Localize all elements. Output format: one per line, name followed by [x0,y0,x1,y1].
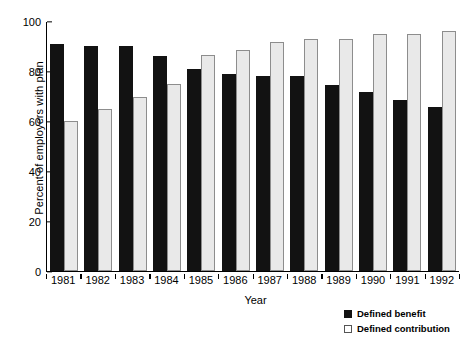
x-axis-label: Year [45,294,466,306]
bar-group [425,22,459,271]
bar-defined-contribution-1983 [133,97,147,271]
bar-defined-contribution-1988 [304,39,318,272]
y-tick-label: 40 [29,166,47,178]
bar-defined-benefit-1985 [187,69,201,272]
x-tick-mark [321,274,322,279]
bar-defined-benefit-1982 [84,46,98,271]
bar-defined-contribution-1987 [270,42,284,271]
bar-chart: Percent of employers with plan 020406080… [0,0,466,348]
x-tick-mark [287,274,288,279]
bar-defined-contribution-1991 [407,34,421,272]
plot-area: 020406080100 [46,22,459,272]
bar-group [322,22,356,271]
x-tick-mark [46,274,47,279]
y-tick-label: 80 [29,66,47,78]
bar-group [47,22,81,271]
x-tick-mark [356,274,357,279]
x-tick-mark [425,274,426,279]
x-tick-label: 1987 [253,274,287,292]
y-tick-label: 60 [29,116,47,128]
bar-defined-benefit-1981 [50,44,64,272]
bar-defined-contribution-1985 [201,55,215,271]
x-tick-label: 1988 [287,274,321,292]
legend-label: Defined contribution [357,323,450,334]
bar-group [219,22,253,271]
x-tick-label: 1983 [115,274,149,292]
bar-group [287,22,321,271]
x-tick-mark [115,274,116,279]
bar-group [116,22,150,271]
bar-defined-benefit-1986 [222,74,236,272]
x-tick-mark [390,274,391,279]
bar-group [81,22,115,271]
chart-legend: Defined benefitDefined contribution [344,308,450,338]
y-tick-label: 20 [29,216,47,228]
bar-defined-benefit-1988 [290,76,304,271]
bar-defined-contribution-1992 [442,31,456,271]
bar-defined-contribution-1990 [373,34,387,272]
bar-defined-contribution-1981 [64,121,78,271]
legend-label: Defined benefit [357,308,426,319]
x-tick-mark [184,274,185,279]
x-tick-label: 1985 [184,274,218,292]
x-tick-label: 1986 [218,274,252,292]
legend-swatch-icon [344,310,352,318]
bar-defined-contribution-1989 [339,39,353,272]
x-axis-ticks: 1981198219831984198519861987198819891990… [46,274,459,292]
bar-defined-benefit-1984 [153,56,167,271]
x-tick-label: 1992 [425,274,459,292]
bar-defined-benefit-1991 [393,100,407,271]
bar-group [253,22,287,271]
x-tick-label: 1982 [80,274,114,292]
bar-defined-contribution-1984 [167,84,181,272]
x-tick-mark [218,274,219,279]
x-tick-mark [80,274,81,279]
y-tick-label: 100 [23,16,47,28]
x-tick-label: 1990 [356,274,390,292]
bar-series-container [47,22,459,271]
bar-defined-benefit-1992 [428,107,442,271]
legend-item: Defined benefit [344,308,450,319]
bar-defined-benefit-1987 [256,76,270,271]
legend-item: Defined contribution [344,323,450,334]
x-tick-mark [149,274,150,279]
y-tick-mark [47,271,52,272]
x-tick-mark [459,274,460,279]
legend-swatch-icon [344,325,352,333]
bar-group [184,22,218,271]
x-tick-label: 1981 [46,274,80,292]
x-tick-label: 1984 [149,274,183,292]
x-tick-label: 1989 [321,274,355,292]
bar-defined-contribution-1986 [236,50,250,271]
x-tick-label: 1991 [390,274,424,292]
bar-defined-contribution-1982 [98,109,112,272]
bar-defined-benefit-1990 [359,92,373,271]
bar-defined-benefit-1983 [119,46,133,271]
bar-defined-benefit-1989 [325,85,339,271]
bar-group [390,22,424,271]
x-tick-mark [253,274,254,279]
bar-group [356,22,390,271]
bar-group [150,22,184,271]
